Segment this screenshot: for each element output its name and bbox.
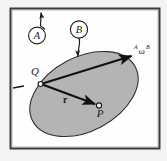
point-q-marker xyxy=(38,82,43,87)
angular-velocity-symbol: ω xyxy=(139,46,145,56)
frame-a-leader-line xyxy=(41,13,42,27)
point-p-label: P xyxy=(96,107,104,119)
frame-a-label: A xyxy=(33,30,41,41)
point-q-label: Q xyxy=(31,65,39,77)
angular-velocity-post-superscript: B xyxy=(146,44,150,50)
figure-container: A B Q P r A ω B xyxy=(0,0,167,161)
angular-velocity-pre-superscript: A xyxy=(133,44,138,50)
body-b-label: B xyxy=(76,24,83,35)
mechanics-diagram: A B Q P r A ω B xyxy=(0,0,167,161)
